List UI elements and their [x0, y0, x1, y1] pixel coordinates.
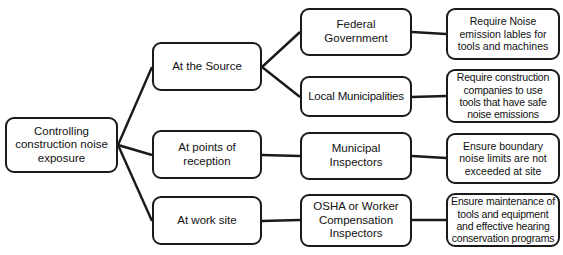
edge-local-to-require-construction — [412, 96, 446, 97]
edge-source-to-local-municipalities — [262, 67, 300, 97]
node-require-construction-companies-safe-tools[interactable]: Require construction companies to use to… — [446, 69, 560, 123]
node-at-work-site[interactable]: At work site — [152, 196, 262, 245]
edge-worksite-to-osha-inspectors — [262, 220, 300, 221]
node-ensure-boundary-noise-limits[interactable]: Ensure boundary noise limits are not exc… — [446, 133, 560, 184]
edge-municipal-to-ensure-boundary — [412, 156, 446, 158]
node-ensure-maintenance-hearing-conservation[interactable]: Ensure maintenance of tools and equipmen… — [446, 193, 560, 247]
edge-federal-to-require-noise-labels — [412, 32, 446, 34]
node-federal-government[interactable]: Federal Government — [300, 8, 412, 56]
node-require-noise-emission-labels[interactable]: Require Noise emission lables for tools … — [446, 8, 560, 60]
node-at-points-of-reception[interactable]: At points of reception — [152, 130, 262, 179]
edge-root-to-at-points-of-reception — [118, 145, 152, 155]
node-osha-or-worker-compensation-inspectors[interactable]: OSHA or Worker Compensation Inspectors — [300, 194, 412, 247]
node-controlling-construction-noise-exposure[interactable]: Controlling construction noise exposure — [5, 117, 118, 173]
node-at-the-source[interactable]: At the Source — [152, 42, 262, 91]
flowchart-canvas: Controlling construction noise exposure … — [0, 0, 563, 255]
edge-source-to-federal-government — [262, 32, 300, 67]
node-local-municipalities[interactable]: Local Municipalities — [300, 76, 412, 117]
edge-root-to-at-work-site — [118, 145, 152, 221]
node-municipal-inspectors[interactable]: Municipal Inspectors — [300, 132, 412, 180]
edge-root-to-at-the-source — [118, 67, 152, 145]
edge-reception-to-municipal-inspectors — [262, 155, 300, 156]
